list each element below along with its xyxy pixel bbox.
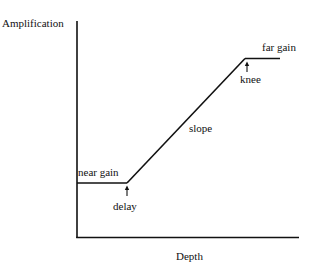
y-axis-label: Amplification (2, 17, 64, 29)
x-axis-label: Depth (176, 250, 203, 262)
knee-label: knee (240, 73, 261, 85)
near-gain-label: near gain (78, 166, 119, 178)
slope-segment (127, 59, 245, 184)
slope-label: slope (189, 122, 212, 134)
far-gain-label: far gain (262, 41, 296, 53)
delay-arrow-icon (125, 186, 129, 197)
delay-label: delay (113, 200, 137, 212)
tgc-curve-diagram: Amplification Depth near gain delay slop… (0, 0, 314, 276)
knee-arrow-icon (245, 62, 249, 73)
